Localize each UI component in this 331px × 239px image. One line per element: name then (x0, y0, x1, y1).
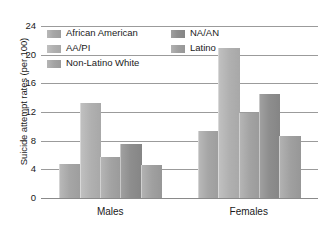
x-axis-label-males: Males (97, 206, 124, 217)
legend-item-na-an[interactable]: NA/AN (171, 26, 221, 41)
y-tick-label-8: 8 (16, 136, 36, 146)
bar-males-latino (141, 165, 162, 198)
legend-item-african-american[interactable]: African American (47, 26, 141, 41)
bar-males-aa-pi (80, 103, 101, 198)
y-tick-label-12: 12 (16, 107, 36, 117)
y-tick-label-4: 4 (16, 165, 36, 175)
legend-item-label: NA/AN (190, 27, 221, 40)
y-tick-label-16: 16 (16, 79, 36, 89)
legend-swatch-icon (47, 60, 61, 68)
bar-females-african-american (198, 131, 219, 198)
legend-item-label: AA/PI (66, 42, 92, 55)
bar-females-non-latino-white (239, 113, 260, 198)
legend-item-label: African American (66, 27, 140, 40)
legend-item-label: Non-Latino White (66, 57, 141, 70)
legend-swatch-icon (47, 45, 61, 53)
bar-males-na-an (120, 144, 141, 198)
legend-swatch-icon (171, 30, 185, 38)
legend-swatch-icon (47, 30, 61, 38)
bar-chart: Suicide attempt rates (per 100) 04812162… (0, 0, 331, 239)
bar-males-non-latino-white (100, 157, 121, 198)
bar-females-latino (279, 136, 300, 198)
x-axis-label-females: Females (230, 206, 268, 217)
legend-item-non-latino-white[interactable]: Non-Latino White (47, 56, 141, 71)
legend-item-aa-pi[interactable]: AA/PI (47, 41, 141, 56)
y-axis-title: Suicide attempt rates (per 100) (18, 17, 29, 187)
legend-column-left: African AmericanAA/PINon-Latino White (47, 26, 141, 71)
y-tick-label-24: 24 (16, 21, 36, 31)
y-tick-label-0: 0 (16, 193, 36, 203)
legend-swatch-icon (171, 45, 185, 53)
bar-females-na-an (259, 94, 280, 198)
bar-males-african-american (59, 164, 80, 198)
legend-item-latino[interactable]: Latino (171, 41, 221, 56)
legend-item-label: Latino (190, 42, 218, 55)
y-tick-label-20: 20 (16, 50, 36, 60)
legend-column-right: NA/ANLatino (171, 26, 221, 56)
gridline-0 (41, 198, 318, 199)
chart-legend: African AmericanAA/PINon-Latino White NA… (47, 26, 277, 72)
